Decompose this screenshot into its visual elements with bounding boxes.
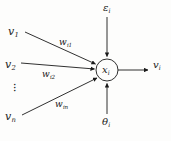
top-input-label-epsilon: εi [103, 3, 110, 13]
figure-canvas: xi v1 v2 vn · · · wi1 wi2 win εi θi vi [0, 0, 171, 141]
weight-label-wi1: wi1 [59, 38, 72, 47]
vertical-ellipsis: · · · [13, 84, 17, 94]
weight-label-win: win [55, 100, 68, 109]
edge-v2-to-node [21, 63, 95, 69]
edge-vn-to-node [22, 78, 97, 115]
input-label-v1: v1 [8, 26, 18, 37]
ellipsis-dot: · [13, 90, 17, 93]
neuron-diagram [0, 0, 171, 141]
bottom-input-label-theta: θi [102, 117, 110, 127]
output-label-vi: vi [153, 60, 160, 70]
neuron-node-label: xi [102, 65, 109, 75]
input-label-vn: vn [5, 111, 15, 122]
input-label-v2: v2 [5, 59, 15, 70]
weight-label-wi2: wi2 [42, 70, 55, 79]
